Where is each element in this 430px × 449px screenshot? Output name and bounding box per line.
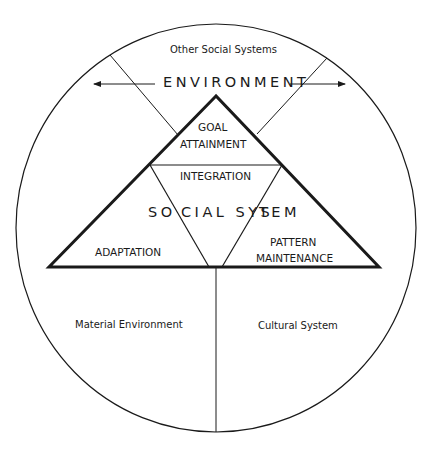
goal-label: GOAL	[198, 121, 227, 134]
social-system-label-part3: TEM	[259, 204, 300, 221]
attainment-label: ATTAINMENT	[180, 138, 246, 151]
left-divider-line	[110, 55, 178, 135]
integration-label: INTEGRATION	[180, 170, 251, 183]
pattern-label: PATTERN	[270, 236, 316, 249]
other-social-systems-label: Other Social Systems	[170, 44, 277, 56]
right-divider-line	[257, 58, 327, 134]
cultural-system-label: Cultural System	[258, 320, 338, 332]
diagram-canvas	[0, 0, 430, 449]
social-system-label-part1: SO	[148, 204, 176, 221]
adaptation-label: ADAPTATION	[95, 246, 161, 259]
environment-label: ENVIRONMENT	[163, 74, 309, 91]
material-environment-label: Material Environment	[75, 319, 183, 331]
maintenance-label: MAINTENANCE	[256, 252, 333, 265]
